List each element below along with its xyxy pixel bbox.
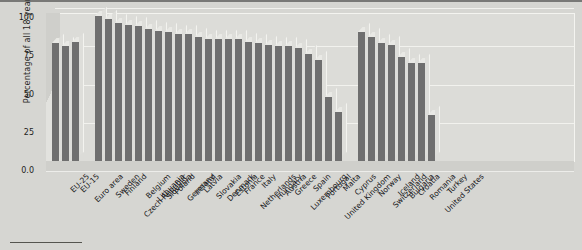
bar [125, 25, 132, 161]
bar [388, 45, 395, 161]
bar [265, 45, 272, 161]
y-tick-25: 25 [8, 128, 34, 137]
bar [72, 42, 79, 161]
page-top-rule [0, 0, 582, 2]
bar-side-face [79, 32, 84, 156]
bar [135, 26, 142, 161]
y-tick-75: 75 [8, 51, 34, 60]
bar [185, 34, 192, 161]
bar [225, 39, 232, 161]
bar [255, 43, 262, 161]
bar [245, 42, 252, 161]
bar [368, 37, 375, 161]
bar [52, 43, 59, 161]
bar [115, 23, 122, 161]
bar [235, 39, 242, 161]
x-axis-tick-labels: EU-25EU-15Euro areaSwedenFinlandCzech Re… [46, 172, 582, 250]
bar [295, 48, 302, 161]
bar [398, 57, 405, 161]
bar [285, 46, 292, 161]
bar-side-face [342, 103, 347, 156]
bar [305, 54, 312, 161]
y-tick-0.0: 0.0 [8, 166, 34, 175]
bar [418, 63, 425, 161]
bar [358, 32, 365, 161]
bar [408, 63, 415, 161]
bar [145, 29, 152, 161]
bar [205, 39, 212, 161]
chart-figure: Percentage of all 18-year-olds 0.0255075… [0, 0, 582, 250]
y-tick-100: 100 [8, 13, 34, 22]
bar [275, 46, 282, 161]
gridline-100 [55, 8, 574, 9]
bar [175, 34, 182, 161]
y-axis: Percentage of all 18-year-olds [4, 0, 36, 250]
bar [105, 19, 112, 161]
bar [335, 112, 342, 161]
bar [378, 43, 385, 161]
bar [325, 97, 332, 161]
bar-side-face [435, 106, 440, 156]
bar [428, 115, 435, 161]
bar [165, 32, 172, 161]
bar-series [46, 13, 574, 171]
bar [155, 31, 162, 161]
bar [62, 46, 69, 161]
plot-area [46, 13, 574, 171]
bar [195, 37, 202, 161]
y-tick-50: 50 [8, 90, 34, 99]
bar [315, 60, 322, 161]
bar [95, 16, 102, 161]
bar [215, 39, 222, 161]
